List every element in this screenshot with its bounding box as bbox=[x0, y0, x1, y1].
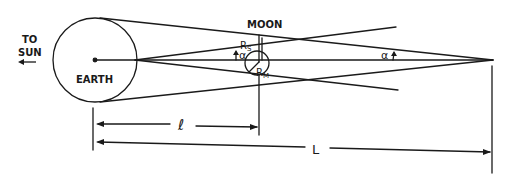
alpha-moon-label: α bbox=[239, 49, 246, 62]
L-dimension-right bbox=[330, 148, 490, 152]
earth-label: EARTH bbox=[76, 74, 113, 85]
L-arrow-right-head bbox=[483, 149, 491, 155]
moon-label: MOON bbox=[247, 19, 282, 30]
l-arrow-left-head bbox=[96, 121, 104, 127]
alpha-apex-arrowhead bbox=[391, 51, 397, 56]
big-L-label: L bbox=[312, 142, 320, 157]
earth-moon-shadow-diagram: TO SUN EARTH MOON RS RM α α ℓ L bbox=[0, 0, 507, 177]
L-dimension-left bbox=[98, 142, 305, 147]
small-l-label: ℓ bbox=[177, 116, 184, 134]
to-sun-label-line2: SUN bbox=[18, 47, 42, 58]
alpha-apex-label: α bbox=[381, 49, 388, 62]
L-arrow-left-head bbox=[96, 139, 104, 145]
l-dimension-right bbox=[196, 126, 257, 127]
to-sun-label-line1: TO bbox=[22, 34, 37, 45]
umbra-bottom-line bbox=[100, 60, 493, 102]
l-arrow-right-head bbox=[250, 124, 258, 130]
